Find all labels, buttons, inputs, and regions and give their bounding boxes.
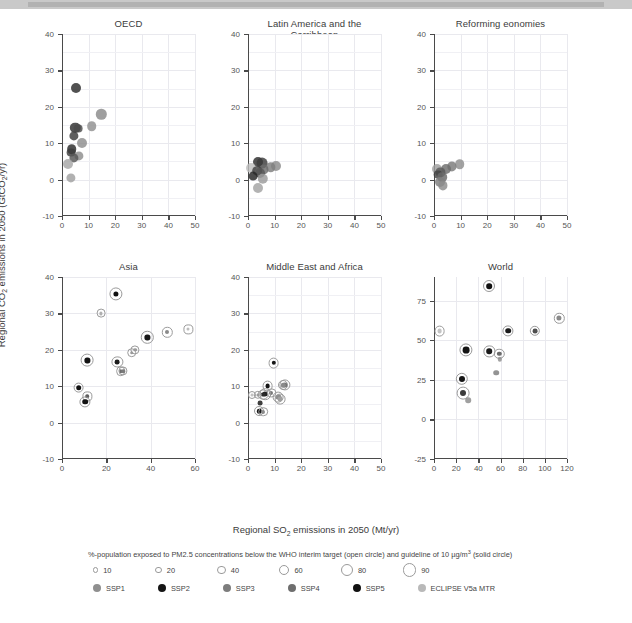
gridline-horizontal bbox=[62, 313, 195, 314]
x-tick-label: 30 bbox=[509, 221, 518, 230]
y-tick-label: 0 bbox=[24, 175, 54, 184]
gridline-horizontal-minor bbox=[248, 52, 381, 53]
gridline-horizontal-minor bbox=[248, 404, 381, 405]
x-tick bbox=[328, 459, 329, 463]
window-top-bar-inner bbox=[28, 2, 604, 7]
x-axis-line bbox=[248, 458, 381, 459]
data-point bbox=[258, 401, 263, 406]
x-tick bbox=[567, 459, 568, 463]
x-tick-label: 20 bbox=[483, 221, 492, 230]
x-tick-label: 30 bbox=[137, 221, 146, 230]
x-axis-line bbox=[434, 215, 567, 216]
size-legend-label: 80 bbox=[358, 566, 366, 575]
size-legend-circle-icon bbox=[403, 563, 416, 576]
scenario-legend-label: SSP5 bbox=[366, 584, 385, 593]
x-tick-label: 10 bbox=[270, 464, 279, 473]
data-point bbox=[250, 394, 253, 397]
y-tick bbox=[244, 107, 248, 108]
y-tick bbox=[244, 70, 248, 71]
x-tick-label: 100 bbox=[538, 464, 551, 473]
data-point bbox=[278, 397, 283, 402]
x-tick-label: 60 bbox=[496, 464, 505, 473]
scenario-legend-swatch-icon bbox=[288, 584, 296, 592]
scenario-legend-item: SSP2 bbox=[153, 584, 190, 593]
y-tick-label: 30 bbox=[24, 309, 54, 318]
x-tick bbox=[168, 216, 169, 220]
y-tick-label: 0 bbox=[210, 418, 240, 427]
x-tick-label: 30 bbox=[323, 464, 332, 473]
y-tick-label: 10 bbox=[210, 139, 240, 148]
y-tick-label: 10 bbox=[24, 382, 54, 391]
gridline-horizontal bbox=[248, 313, 381, 314]
data-point bbox=[121, 369, 125, 373]
size-legend-label: 10 bbox=[103, 566, 111, 575]
gridline-vertical bbox=[567, 277, 568, 459]
gridline-horizontal bbox=[248, 70, 381, 71]
gridline-horizontal-minor bbox=[62, 52, 195, 53]
data-point bbox=[96, 109, 106, 119]
y-tick bbox=[430, 301, 434, 302]
data-point bbox=[76, 385, 82, 391]
x-tick bbox=[328, 216, 329, 220]
data-point bbox=[438, 181, 447, 190]
x-tick-label: 0 bbox=[432, 221, 436, 230]
scenario-legend-swatch-icon bbox=[353, 584, 361, 592]
y-tick-label: 40 bbox=[24, 273, 54, 282]
x-tick bbox=[195, 216, 196, 220]
y-axis-line bbox=[248, 277, 249, 459]
y-tick bbox=[244, 350, 248, 351]
x-tick-label: 50 bbox=[191, 221, 200, 230]
size-legend-item: 90 bbox=[398, 563, 460, 576]
y-tick-label: 30 bbox=[396, 66, 426, 75]
x-tick bbox=[487, 216, 488, 220]
size-legend-item: 60 bbox=[274, 565, 336, 575]
data-point bbox=[261, 410, 265, 414]
size-legend-label: 90 bbox=[421, 566, 429, 575]
data-point bbox=[460, 390, 466, 396]
y-tick bbox=[430, 419, 434, 420]
y-tick bbox=[244, 277, 248, 278]
scenario-legend-swatch-icon bbox=[223, 584, 231, 592]
data-point bbox=[249, 172, 258, 181]
x-tick bbox=[381, 216, 382, 220]
y-axis-label: Regional CO2 emissions in 2050 (GtCO2/yr… bbox=[0, 105, 8, 405]
gridline-vertical bbox=[567, 34, 568, 216]
size-legend-circle-icon bbox=[341, 564, 353, 576]
gridline-horizontal bbox=[434, 340, 567, 341]
gridline-horizontal-minor bbox=[248, 89, 381, 90]
y-tick bbox=[244, 34, 248, 35]
x-tick-label: 20 bbox=[111, 221, 120, 230]
data-point bbox=[87, 122, 97, 132]
x-tick-label: 10 bbox=[270, 221, 279, 230]
y-axis-line bbox=[434, 34, 435, 216]
y-tick bbox=[430, 143, 434, 144]
x-axis-label: Regional SO2 emissions in 2050 (Mt/yr) bbox=[0, 524, 632, 537]
data-point bbox=[66, 174, 75, 183]
plot-area: -1001020304001020304050 bbox=[62, 34, 195, 216]
data-point bbox=[455, 160, 465, 170]
y-axis-line bbox=[434, 277, 435, 459]
data-point bbox=[437, 328, 442, 333]
panel-world: World-250255075020406080100120 bbox=[394, 261, 567, 483]
data-point bbox=[493, 370, 499, 376]
x-tick-label: 0 bbox=[246, 221, 250, 230]
x-tick bbox=[106, 459, 107, 463]
size-legend-item: 20 bbox=[150, 566, 212, 575]
x-tick bbox=[514, 216, 515, 220]
data-point bbox=[459, 376, 465, 382]
x-tick bbox=[248, 459, 249, 463]
plot-area: -100102030400204060 bbox=[62, 277, 195, 459]
x-tick bbox=[456, 459, 457, 463]
x-tick bbox=[275, 216, 276, 220]
scenario-legend-swatch-icon bbox=[93, 584, 101, 592]
x-tick-label: 20 bbox=[297, 464, 306, 473]
panel-middle-east-and-africa: Middle East and Africa-10010203040010203… bbox=[208, 261, 381, 483]
scenario-legend-swatch-icon bbox=[418, 584, 426, 592]
x-tick bbox=[545, 459, 546, 463]
scenario-legend-item: SSP1 bbox=[88, 584, 125, 593]
plot-area: -1001020304001020304050 bbox=[248, 34, 381, 216]
x-tick-label: 40 bbox=[350, 464, 359, 473]
size-legend-label: 60 bbox=[294, 566, 302, 575]
data-point bbox=[187, 328, 190, 331]
x-tick-label: 0 bbox=[60, 221, 64, 230]
